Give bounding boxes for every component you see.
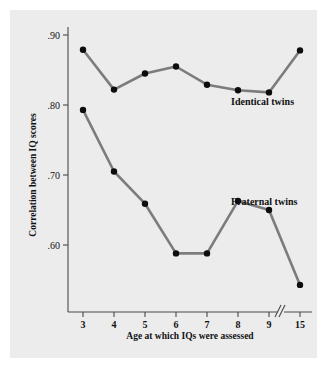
x-axis-title: Age at which IQs were assessed <box>126 331 254 341</box>
data-point <box>266 207 272 213</box>
data-point <box>297 47 303 53</box>
series-label-fraternal-twins: Fraternal twins <box>231 196 297 207</box>
data-point <box>204 82 210 88</box>
y-axis-tick-label: .70 <box>48 170 61 181</box>
twin-iq-correlation-chart: .90.80.70.60345678915Identical twinsFrat… <box>0 0 329 377</box>
y-axis-title: Correlation between IQ scores <box>28 113 38 237</box>
x-axis-tick-label: 8 <box>236 319 241 330</box>
x-axis-tick-label: 6 <box>174 319 179 330</box>
y-axis-tick-label: .90 <box>48 30 61 41</box>
x-axis-tick-label: 15 <box>295 319 305 330</box>
x-axis-tick-label: 7 <box>205 319 210 330</box>
x-axis-tick-label: 5 <box>143 319 148 330</box>
data-point <box>142 70 148 76</box>
x-axis-tick-label: 4 <box>112 319 117 330</box>
y-axis-tick-label: .80 <box>48 100 61 111</box>
series-line-identical-twins <box>83 50 300 93</box>
data-point <box>297 282 303 288</box>
series-label-identical-twins: Identical twins <box>231 96 294 107</box>
data-point <box>235 87 241 93</box>
data-point <box>266 89 272 95</box>
figure-container: .90.80.70.60345678915Identical twinsFrat… <box>0 0 329 377</box>
x-axis-tick-label: 9 <box>267 319 272 330</box>
data-point <box>111 86 117 92</box>
data-point <box>111 168 117 174</box>
x-axis-tick-label: 3 <box>81 319 86 330</box>
y-axis-tick-label: .60 <box>48 240 61 251</box>
data-point <box>80 47 86 53</box>
data-point <box>204 250 210 256</box>
data-point <box>80 107 86 113</box>
data-point <box>142 201 148 207</box>
data-point <box>173 250 179 256</box>
data-point <box>173 63 179 69</box>
